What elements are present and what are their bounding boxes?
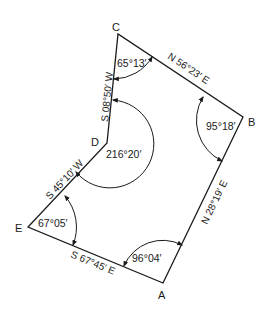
angle-label-e: 67°05′ [38,217,68,229]
angle-label-b: 95°18′ [206,120,236,132]
bearing-label-ea: S 67°45′ E [69,249,117,277]
angle-label-a: 96°04′ [132,252,162,264]
vertex-label-b: B [248,116,255,128]
angle-label-d: 216°20′ [106,148,141,160]
bearing-label-de: S 45°10′ W [43,157,85,201]
bearing-label-ab: N 28°19′ E [199,178,230,226]
vertex-label-d: D [91,136,99,148]
angle-arc-d [76,100,154,188]
vertex-label-e: E [15,222,22,234]
angle-label-c: 65°13′ [117,57,147,69]
traverse-diagram: C B A E D 65°13′ 95°18′ 96°04′ 67°05′ 21… [0,0,269,316]
vertex-label-a: A [158,289,166,301]
vertex-label-c: C [112,21,120,33]
bearing-label-cd: S 08°50′ W [99,71,115,122]
